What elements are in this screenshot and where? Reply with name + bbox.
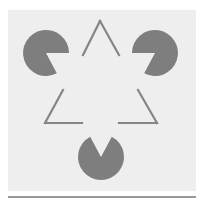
kanizsa-figure [0,0,204,204]
